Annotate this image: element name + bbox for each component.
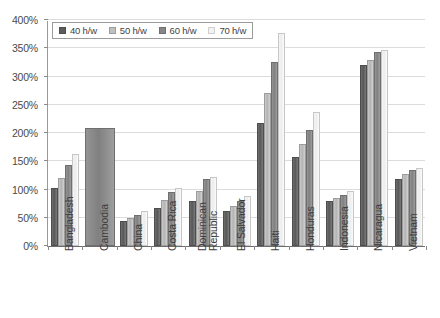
gridline	[48, 19, 425, 20]
legend-label: 70 h/w	[219, 25, 246, 36]
legend-swatch-icon	[59, 27, 66, 34]
bar	[120, 221, 127, 246]
y-tick-mark	[44, 19, 48, 20]
bar	[154, 208, 161, 246]
bar-group-bars	[117, 21, 151, 246]
bar	[51, 188, 58, 246]
legend-swatch-icon	[159, 27, 166, 34]
bar	[189, 201, 196, 246]
legend-item-50-h-w[interactable]: 50 h/w	[109, 25, 147, 36]
y-tick-label: 100%	[12, 184, 38, 196]
bar-group	[117, 21, 151, 246]
y-tick-label: 350%	[12, 42, 38, 54]
bar	[271, 62, 278, 246]
y-tick-label: 150%	[12, 155, 38, 167]
legend-item-70-h-w[interactable]: 70 h/w	[208, 25, 246, 36]
bar	[395, 179, 402, 246]
x-tick-label: Vietnam	[376, 249, 440, 313]
legend-label: 60 h/w	[170, 25, 197, 36]
y-tick-label: 400%	[12, 14, 38, 26]
legend-label: 40 h/w	[70, 25, 97, 36]
bar-group	[254, 21, 288, 246]
y-tick-label: 50%	[18, 212, 38, 224]
x-axis-labels: BangladeshCambodiaChinaCosta RicaDominic…	[47, 249, 425, 318]
bar	[257, 123, 264, 246]
chart-legend: 40 h/w50 h/w60 h/w70 h/w	[52, 22, 253, 39]
bar	[223, 211, 230, 246]
legend-item-40-h-w[interactable]: 40 h/w	[59, 25, 97, 36]
bar	[264, 93, 271, 246]
bar-group-bars	[254, 21, 288, 246]
bar-chart: 0%50%100%150%200%250%300%350%400% Bangla…	[0, 0, 440, 318]
legend-label: 50 h/w	[120, 25, 147, 36]
y-tick-label: 300%	[12, 71, 38, 83]
bar	[326, 201, 333, 246]
y-tick-label: 250%	[12, 99, 38, 111]
legend-swatch-icon	[109, 27, 116, 34]
bar	[278, 33, 285, 246]
legend-swatch-icon	[208, 27, 215, 34]
bar	[292, 157, 299, 246]
bar	[360, 65, 367, 246]
y-tick-label: 200%	[12, 127, 38, 139]
legend-item-60-h-w[interactable]: 60 h/w	[159, 25, 197, 36]
